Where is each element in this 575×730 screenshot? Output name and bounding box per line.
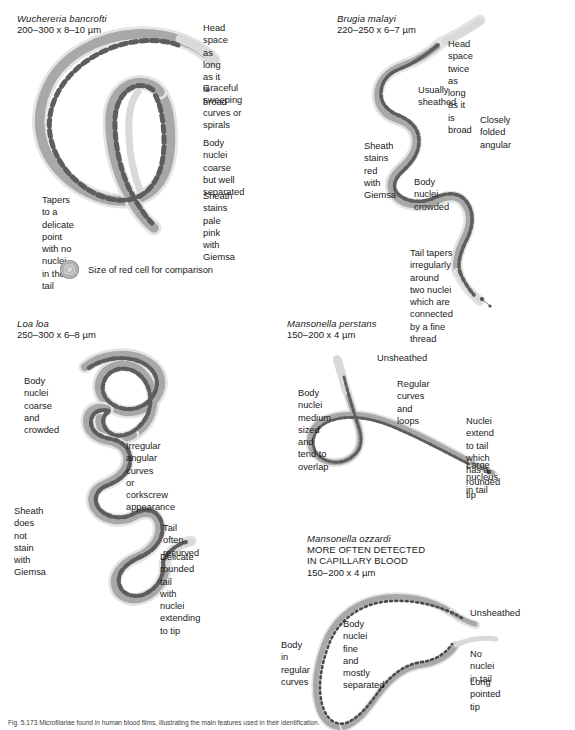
annotation-body-nuclei-ozzardi: Body nuclei fine and mostly separated — [343, 618, 384, 692]
annotation-sheathed-brugia: Usually sheathed — [418, 84, 456, 109]
annotation-unsheathed-ozzardi: Unsheathed — [470, 607, 520, 619]
annotation-folded-brugia: Closely folded angular — [480, 114, 511, 151]
annotation-tip-ozzardi: Long pointed tip — [470, 676, 501, 713]
species-note-line-2: IN CAPILLARY BLOOD — [307, 555, 425, 566]
species-dimensions: 250–300 x 6–8 µm — [17, 329, 96, 340]
species-note-line-1: MORE OFTEN DETECTED — [307, 544, 425, 555]
annotation-body-curves-ozzardi: Body in regular curves — [281, 639, 310, 688]
annotation-sheath-stain-brugia: Sheath stains red with Giemsa — [364, 140, 396, 201]
annotation-body-nuclei-loa: Body nuclei coarse and crowded — [24, 375, 59, 436]
legend-label: Size of red cell for comparison — [88, 265, 213, 275]
species-heading-perstans: Mansonella perstans 150–200 x 4 µm — [287, 318, 377, 340]
species-dimensions: 150–200 x 4 µm — [287, 329, 377, 340]
red-cell-legend: Size of red cell for comparison — [60, 260, 213, 279]
figure-caption: Fig. 5.173 Microfilariae found in human … — [8, 719, 568, 730]
species-name: Mansonella ozzardi — [307, 533, 425, 544]
annotation-unsheathed-perstans: Unsheathed — [377, 352, 427, 364]
annotation-curves-perstans: Regular curves and loops — [397, 378, 430, 427]
annotation-tail-loa: Delicate rounded tail with nuclei extend… — [160, 551, 200, 637]
annotation-sheath-stain-wuchereria: Sheath stains pale pink with Giemsa — [203, 190, 235, 264]
species-name: Loa loa — [17, 318, 96, 329]
annotation-body-nuclei-perstans: Body nuclei medium sized and tend to ove… — [298, 387, 331, 473]
species-dimensions: 150–200 x 4 µm — [307, 567, 425, 578]
annotation-sheath-stain-loa: Sheath does not stain with Giemsa — [14, 505, 46, 579]
species-heading-ozzardi: Mansonella ozzardi MORE OFTEN DETECTED I… — [307, 533, 425, 578]
annotation-curves-loa: Irregular angular curves or corkscrew ap… — [126, 440, 175, 514]
species-name: Mansonella perstans — [287, 318, 377, 329]
annotation-body-nuclei-brugia: Body nuclei crowded — [414, 176, 449, 213]
annotation-large-nucleus-perstans: Large nucleus in tail — [466, 459, 498, 496]
annotation-tail-brugia: Tail tapers irregularly around two nucle… — [410, 247, 453, 345]
annotation-curves-wuchereria: Graceful sweeping curves or spirals — [203, 82, 242, 131]
species-heading-loa: Loa loa 250–300 x 6–8 µm — [17, 318, 96, 340]
red-blood-cell-icon — [60, 260, 79, 279]
microfilariae-identification-figure: Wuchereria bancrofti 200–300 x 8–10 µm H… — [0, 0, 575, 730]
